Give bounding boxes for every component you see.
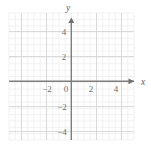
x-tick-label: −2 bbox=[42, 84, 52, 94]
x-axis-arrowhead bbox=[129, 78, 135, 84]
coordinate-plane-figure: y x 0 −2 2 4 4 2 −2 −4 bbox=[0, 0, 151, 150]
y-axis-arrowhead bbox=[68, 18, 74, 24]
y-tick-label: 2 bbox=[62, 52, 67, 62]
x-axis-label: x bbox=[140, 77, 146, 87]
y-axis-label: y bbox=[65, 3, 71, 13]
origin-tick-label: 0 bbox=[64, 84, 69, 94]
y-tick-label: −2 bbox=[57, 102, 67, 112]
x-tick-label: 4 bbox=[114, 84, 119, 94]
y-tick-label: −4 bbox=[57, 127, 67, 137]
x-tick-label: 2 bbox=[89, 84, 94, 94]
graph-svg: y x 0 −2 2 4 4 2 −2 −4 bbox=[0, 0, 151, 150]
y-tick-label: 4 bbox=[62, 27, 67, 37]
